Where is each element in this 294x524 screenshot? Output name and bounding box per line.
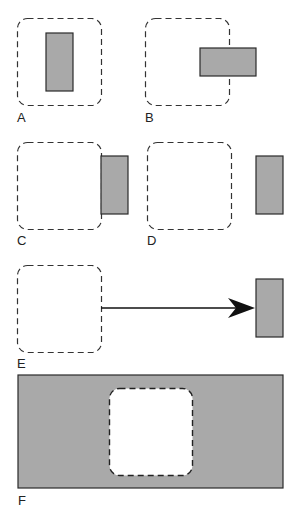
panel-label-f: F <box>18 494 26 507</box>
panel-f <box>18 375 283 488</box>
block <box>200 48 256 76</box>
panel-label-d: D <box>147 234 156 247</box>
block <box>46 33 73 91</box>
block <box>256 279 283 337</box>
dashed-region <box>18 266 102 353</box>
dashed-region <box>18 143 102 230</box>
dashed-region <box>110 389 193 476</box>
panel-label-a: A <box>17 111 26 124</box>
block <box>256 156 283 214</box>
panel-e <box>18 266 284 353</box>
diagram-canvas <box>0 0 294 524</box>
panel-b <box>146 19 257 106</box>
panel-label-e: E <box>17 357 26 370</box>
block <box>101 156 128 214</box>
panel-c <box>18 143 129 230</box>
panel-label-b: B <box>145 111 154 124</box>
panel-a <box>18 19 102 106</box>
dashed-region <box>148 143 232 230</box>
panel-d <box>148 143 284 230</box>
panel-label-c: C <box>17 234 26 247</box>
